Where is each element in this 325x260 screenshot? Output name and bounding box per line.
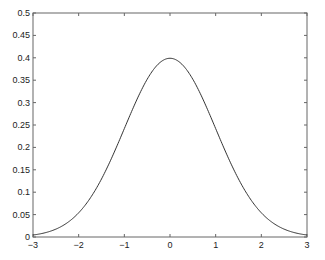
y-tick-label: 0.15 [12, 165, 30, 175]
y-tick-label: 0 [25, 232, 30, 242]
x-tick-label: 1 [213, 240, 218, 250]
y-tick-label: 0.5 [17, 8, 30, 18]
axes-box [33, 13, 307, 237]
x-tick-label: 0 [167, 240, 172, 250]
y-tick-label: 0.35 [12, 75, 30, 85]
chart: −3−2−1012300.050.10.150.20.250.30.350.40… [0, 0, 325, 260]
pdf-curve [33, 58, 307, 235]
y-tick-label: 0.25 [12, 120, 30, 130]
x-tick-label: −1 [119, 240, 129, 250]
y-tick-label: 0.1 [17, 187, 30, 197]
x-tick-label: 3 [304, 240, 309, 250]
y-tick-label: 0.05 [12, 210, 30, 220]
tick-labels: −3−2−1012300.050.10.150.20.250.30.350.40… [12, 8, 309, 250]
x-tick-label: 2 [259, 240, 264, 250]
y-tick-label: 0.45 [12, 30, 30, 40]
ticks [33, 13, 307, 237]
y-tick-label: 0.3 [17, 98, 30, 108]
y-tick-label: 0.2 [17, 142, 30, 152]
y-tick-label: 0.4 [17, 53, 30, 63]
x-tick-label: −2 [74, 240, 84, 250]
